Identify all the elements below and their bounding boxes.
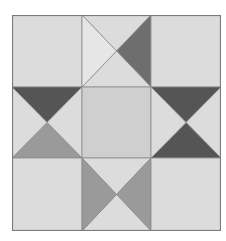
quilt-grid — [12, 15, 221, 231]
square-top-right — [151, 15, 221, 87]
square-bottom-left — [12, 158, 82, 231]
quilt-diagram: Ohio Star quilt block — [12, 15, 221, 231]
square-center — [82, 87, 151, 158]
square-top-left — [12, 15, 82, 87]
square-bottom-right — [151, 158, 221, 231]
